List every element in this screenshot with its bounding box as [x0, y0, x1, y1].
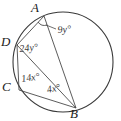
geometry-canvas — [0, 0, 121, 121]
vertex-label-c: C — [2, 80, 11, 93]
vertex-label-a: A — [31, 1, 39, 14]
vertex-label-d: D — [1, 35, 10, 48]
geometry-diagram: A D C B 9y° 24y° 14x° 4x° — [0, 0, 121, 121]
angle-label-24y: 24y° — [19, 42, 38, 54]
chord-ad — [17, 16, 44, 45]
vertex-label-b: B — [70, 107, 78, 120]
angle-arc-mark-a — [38, 22, 47, 25]
angle-label-9y: 9y° — [57, 24, 71, 35]
